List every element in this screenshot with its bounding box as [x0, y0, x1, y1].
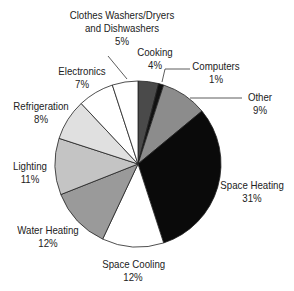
label-lighting: Lighting 11% [12, 160, 47, 186]
label-water-heating: Water Heating 12% [16, 224, 79, 250]
label-space-heating: Space Heating 31% [220, 179, 283, 205]
label-other: Other 9% [242, 91, 277, 117]
label-refrigeration: Refrigeration 8% [12, 100, 70, 126]
label-space-cooling: Space Cooling 12% [102, 258, 164, 284]
label-cooking: Cooking 4% [133, 46, 177, 72]
label-computers: Computers 1% [190, 60, 243, 86]
label-electronics: Electronics 7% [56, 65, 109, 91]
label-clothes: Clothes Washers/Dryers and Dishwashers 5… [60, 9, 183, 48]
